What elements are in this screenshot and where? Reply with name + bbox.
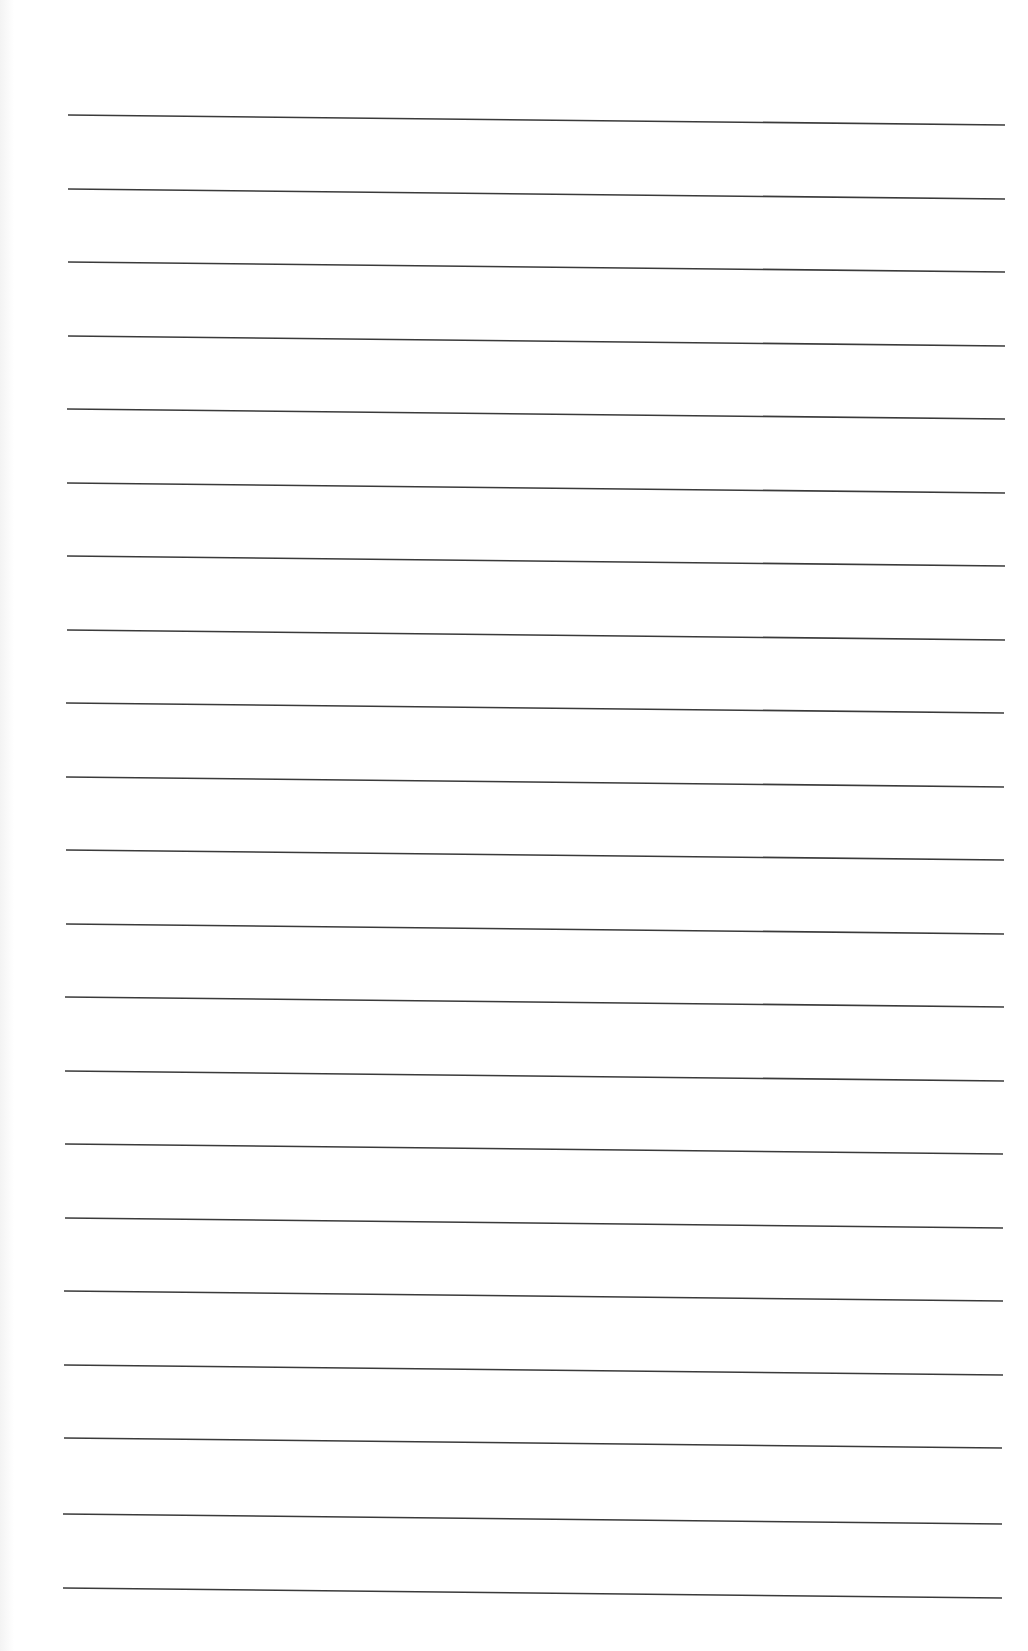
ruled-line-9	[66, 703, 1004, 713]
ruled-line-6	[67, 483, 1005, 493]
ruled-line-12	[66, 924, 1004, 934]
ruled-line-16	[65, 1218, 1003, 1228]
ruled-line-20	[63, 1514, 1002, 1524]
lined-paper-page	[0, 0, 1028, 1651]
ruled-line-8	[67, 630, 1005, 640]
ruled-line-13	[65, 997, 1004, 1007]
ruled-line-2	[68, 189, 1005, 199]
ruled-line-14	[65, 1071, 1004, 1081]
ruled-line-3	[68, 262, 1005, 272]
ruled-lines	[0, 0, 1028, 1651]
ruled-line-21	[63, 1588, 1002, 1598]
ruled-line-17	[64, 1291, 1003, 1301]
ruled-line-15	[65, 1144, 1003, 1154]
ruled-line-11	[66, 850, 1004, 860]
ruled-line-10	[66, 777, 1004, 787]
ruled-line-5	[67, 409, 1005, 419]
ruled-line-7	[67, 556, 1005, 566]
ruled-line-18	[64, 1365, 1003, 1375]
ruled-line-4	[68, 336, 1005, 346]
ruled-line-19	[64, 1438, 1002, 1448]
ruled-line-1	[68, 115, 1005, 125]
